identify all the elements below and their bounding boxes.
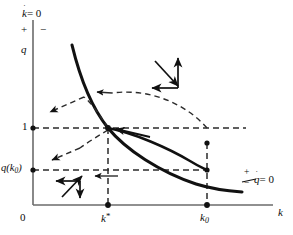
kdot-plus-sign: + [21,24,27,35]
lower-divergent-trajectory [80,130,108,148]
dot-q-k0-axis [30,167,35,172]
upper-divergent-arrow-segment [50,97,84,112]
qdot-zero-equals: = 0 [260,173,274,185]
k-star-asterisk: * [106,211,110,221]
q-dot-symbol: q˙ [254,173,260,185]
qdot-zero-label: q˙= 0 [254,174,274,185]
x-tick-k-star: k* [101,212,110,224]
q-k0-close: ) [18,162,22,173]
y-tick-q-k0: q(k0) [1,163,22,174]
qdot-plus-sign: + [244,168,249,178]
kdot-zero-equals: = 0 [27,7,41,19]
dot-steady-state [105,125,111,131]
arrow-diagonal-down-right [155,61,178,86]
qdot-minus-sign: − [244,179,249,189]
saddle-path-curve [108,128,207,170]
kdot-minus-sign: − [40,24,46,35]
k0-subscript: 0 [205,216,209,225]
x-axis-label: k [278,207,283,218]
dot-k0-axis [204,202,210,208]
dot-k0-on-qk0 [204,167,209,172]
diagram-canvas [0,0,293,235]
kdot-zero-label: k+˙= 0 [22,8,41,19]
x-tick-k0: k0 [200,212,209,225]
dot-q-one-axis [30,125,35,130]
upper-arc-arrow-segment [97,92,112,93]
y-axis-label: q [21,44,27,55]
y-tick-one: 1 [22,121,28,132]
q-k0-open: q( [1,162,10,173]
k-dot-symbol: k+˙ [22,7,27,19]
origin-label: 0 [20,212,26,223]
phase-diagram-figure: k+˙= 0 + − q 1 q(k0) 0 k* k0 k + − q˙= 0 [0,0,293,235]
upper-right-direction-field [152,58,178,88]
dot-k-star-axis [105,202,111,208]
lower-left-direction-field [56,176,82,198]
lower-divergent-arrow-segment [52,148,80,160]
dot-k0-on-one [204,140,209,145]
upper-right-arc-trajectory [112,92,207,128]
arrow-diagonal-up-right [62,176,82,197]
